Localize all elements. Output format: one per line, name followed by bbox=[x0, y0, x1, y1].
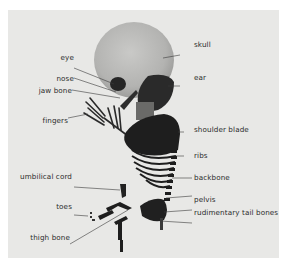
specimen-photo: eye nose jaw bone fingers umbilical cord… bbox=[8, 10, 279, 258]
label-eye: eye bbox=[44, 53, 74, 62]
eye-shape bbox=[110, 77, 126, 91]
label-backbone: backbone bbox=[194, 173, 230, 182]
label-skull: skull bbox=[194, 40, 211, 49]
label-shoulder-blade: shoulder blade bbox=[194, 125, 249, 134]
fingers-shape bbox=[84, 98, 128, 136]
label-pelvis: pelvis bbox=[194, 195, 216, 204]
pelvis-shape bbox=[140, 199, 167, 221]
label-ear: ear bbox=[194, 73, 206, 82]
leg-bones-shape bbox=[98, 202, 132, 252]
label-ribs: ribs bbox=[194, 151, 208, 160]
label-thigh-bone: thigh bone bbox=[18, 233, 70, 242]
skeleton-illustration bbox=[8, 10, 279, 258]
label-umbilical-cord: umbilical cord bbox=[8, 172, 72, 181]
label-nose: nose bbox=[34, 74, 74, 83]
label-jaw-bone: jaw bone bbox=[22, 86, 72, 95]
label-rudimentary-tail-bones: rudimentary tail bones bbox=[194, 208, 278, 217]
toes-shape bbox=[90, 212, 95, 221]
label-fingers: fingers bbox=[22, 116, 68, 125]
label-toes: toes bbox=[38, 202, 72, 211]
tail-bones-shape bbox=[160, 218, 163, 230]
